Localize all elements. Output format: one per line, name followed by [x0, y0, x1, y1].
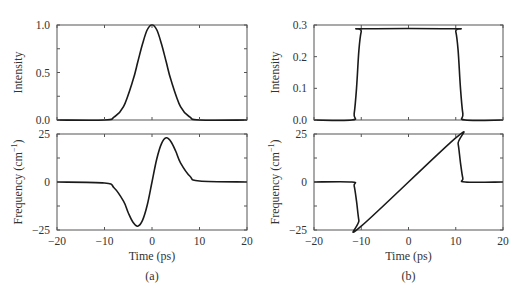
frequency-curve — [57, 138, 247, 226]
panel-a-bottom-plot: 25 0 −25 −20 −10 0 10 20 Time (ps) Frequ… — [10, 128, 253, 263]
tick-marks — [314, 25, 503, 120]
ytick-label: 0.5 — [36, 67, 51, 79]
y-axis-label: Frequency (cm−1) — [10, 140, 25, 225]
x-axis-label: Time (ps) — [385, 249, 432, 263]
y-axis-label: Intensity — [11, 52, 25, 94]
plot-frame — [314, 25, 503, 120]
ytick-label: 0 — [44, 176, 50, 188]
xtick-label: −10 — [352, 235, 370, 247]
xtick-label: 20 — [497, 235, 509, 247]
xtick-label: −20 — [48, 235, 66, 247]
ytick-label: 0.0 — [293, 114, 308, 126]
xtick-label: 0 — [149, 235, 155, 247]
ytick-label: 25 — [39, 128, 51, 140]
panel-caption: (b) — [402, 269, 416, 283]
panel-a: 1.0 0.5 0.0 Intensity 25 0 −25 −20 −10 0… — [10, 19, 253, 283]
xtick-label: −10 — [96, 235, 114, 247]
ytick-label: 0.1 — [293, 82, 308, 94]
ytick-label: 0.0 — [36, 114, 51, 126]
xtick-label: 10 — [450, 235, 462, 247]
xtick-label: 10 — [194, 235, 206, 247]
xtick-label: −20 — [305, 235, 323, 247]
intensity-curve — [314, 28, 503, 120]
intensity-curve — [57, 25, 247, 120]
panel-caption: (a) — [145, 269, 158, 283]
ytick-label: 0.2 — [293, 51, 308, 63]
panel-a-top-plot: 1.0 0.5 0.0 Intensity — [11, 19, 247, 126]
panel-b: 0.3 0.2 0.1 0.0 Intensity 25 0 −25 −20 −… — [267, 19, 509, 283]
panel-b-top-plot: 0.3 0.2 0.1 0.0 Intensity — [268, 19, 503, 126]
figure: 1.0 0.5 0.0 Intensity 25 0 −25 −20 −10 0… — [0, 0, 525, 292]
ytick-label: 25 — [296, 128, 308, 140]
plot-frame — [57, 25, 247, 120]
ytick-label: 1.0 — [36, 19, 51, 31]
x-axis-label: Time (ps) — [129, 249, 176, 263]
y-axis-label: Intensity — [268, 52, 282, 94]
ytick-label: 0.3 — [293, 19, 308, 31]
xtick-label: 0 — [406, 235, 412, 247]
panel-b-bottom-plot: 25 0 −25 −20 −10 0 10 20 Time (ps) Frequ… — [267, 128, 509, 263]
y-axis-label: Frequency (cm−1) — [267, 140, 282, 225]
tick-marks — [57, 25, 247, 120]
xtick-label: 20 — [241, 235, 253, 247]
frequency-curve — [314, 132, 503, 233]
ytick-label: 0 — [301, 176, 307, 188]
